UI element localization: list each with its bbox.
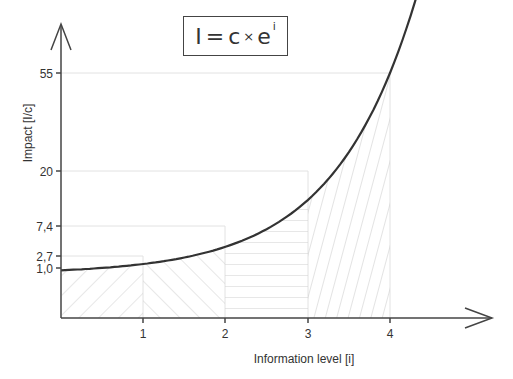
x-tick-4: 4	[387, 327, 394, 341]
hatched-regions	[62, 60, 390, 318]
x-tick-1: 1	[140, 327, 147, 341]
formula-times: ×	[243, 29, 254, 44]
formula-constant: c	[228, 24, 240, 49]
y-tick-7-4: 7,4	[36, 220, 53, 234]
region-1-2	[143, 60, 225, 318]
formula-exponent: i	[273, 20, 276, 33]
formula-lhs: I	[195, 24, 202, 49]
exponential-chart: 55 20 7,4 2,7 1,0 1 2 3 4 Information le…	[0, 0, 513, 379]
y-axis-title: Impact [I/c]	[21, 104, 35, 163]
x-tick-2: 2	[222, 327, 229, 341]
formula-equals: =	[206, 24, 224, 49]
formula-box: I = c × e i	[183, 16, 288, 56]
y-tick-55: 55	[40, 67, 54, 81]
region-2-3	[225, 60, 308, 318]
x-axis-title: Information level [i]	[254, 352, 355, 366]
y-tick-1-0: 1,0	[36, 262, 53, 276]
region-0-1	[62, 60, 143, 318]
formula-base: e	[257, 24, 271, 49]
x-tick-3: 3	[305, 327, 312, 341]
y-tick-20: 20	[40, 165, 54, 179]
